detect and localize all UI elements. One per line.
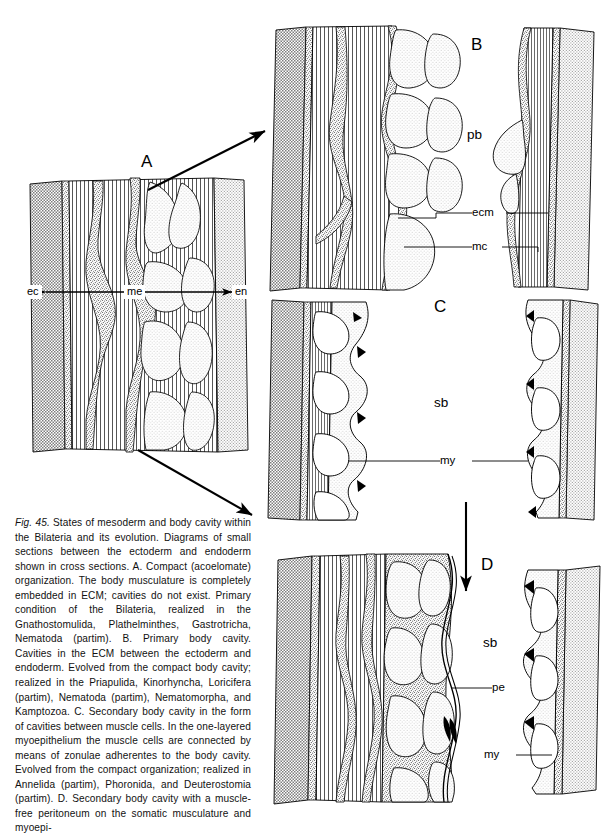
panel-b-ecm-sheet-left <box>381 26 406 290</box>
panel-b-muscle-field <box>307 26 392 290</box>
panel-d-cavity-outlines-right <box>531 588 558 769</box>
panel-letter-c: C <box>434 298 446 315</box>
panel-d-ecm-matrix <box>382 554 452 802</box>
panel-c-zonulae-right <box>526 310 536 518</box>
panel-d-ecm-septa <box>336 554 382 802</box>
panel-b-muscle-field-right <box>518 28 553 287</box>
label-peritoneum: pe <box>492 682 505 694</box>
panel-a-basal-ecm <box>62 181 72 449</box>
panel-b-basal-ecm-right <box>547 28 560 287</box>
arrow-a-to-b <box>148 131 265 190</box>
panel-c-cavity-outlines-right <box>532 318 560 499</box>
panel-c-diagram <box>268 300 598 520</box>
panel-d-basal-ecm-right <box>554 570 566 794</box>
panel-b-endoderm-right <box>554 28 594 290</box>
panel-b-ecm-sheet-right <box>507 28 531 287</box>
arrow-a-to-d <box>138 450 252 515</box>
panel-d-peritoneum-left <box>442 554 456 802</box>
panel-c-zonulae-left <box>353 312 366 492</box>
label-ectoderm: ec <box>24 285 42 299</box>
panel-b-muscle-cells-right <box>493 120 525 214</box>
panel-c-myoepithelium-right <box>526 300 563 518</box>
panel-c-cavity-outlines <box>313 312 349 520</box>
figure-number: Fig. 45. <box>15 517 50 528</box>
label-primary-body-cavity: pb <box>467 128 482 142</box>
panel-c-myoepithelium-left <box>328 302 368 520</box>
panel-d-basal-ecm <box>308 556 320 800</box>
panel-a-diagram <box>30 178 248 452</box>
panel-letter-d: D <box>481 556 493 573</box>
panel-d-peritoneum-left-inner <box>446 556 460 802</box>
label-secondary-body-cavity-c: sb <box>434 396 448 410</box>
label-ecm: ecm <box>472 207 494 219</box>
panel-d-zonulae-left <box>443 716 456 744</box>
panel-a-endoderm <box>214 178 248 452</box>
panel-a-ectoderm <box>30 181 65 452</box>
panel-d-leaders <box>452 688 552 755</box>
label-secondary-body-cavity-d: sb <box>483 636 497 650</box>
panel-d-zonulae-right <box>524 580 534 730</box>
panel-letter-a: A <box>141 153 152 170</box>
panel-b-ectoderm <box>270 27 306 291</box>
panel-a-cells <box>141 182 214 450</box>
panel-d-ectoderm <box>274 556 312 804</box>
panel-c-basal-ecm-right <box>559 300 570 518</box>
panel-b-basal-ecm <box>300 27 313 288</box>
panel-d-muscle-field <box>316 554 386 802</box>
panel-c-basal-ecm <box>300 302 311 520</box>
panel-b-ecm-septum-1 <box>329 27 352 288</box>
panel-d-myoepithelium-right <box>523 570 558 794</box>
panel-a-muscle-field <box>69 178 218 452</box>
panel-d-cells <box>384 560 454 802</box>
panel-b-muscle-cells <box>384 30 462 290</box>
panel-letter-b: B <box>471 36 482 53</box>
panel-c-muscle-field <box>307 302 332 520</box>
label-myoepithelium-c: my <box>440 455 455 467</box>
panel-b-ecm-septum-1b <box>316 196 352 244</box>
panel-a-ecm-septa <box>86 178 156 452</box>
label-muscle-cell: mc <box>472 241 487 253</box>
figure-caption: Fig. 45. States of mesoderm and body cav… <box>15 516 251 836</box>
panel-c-endoderm-right <box>566 300 598 520</box>
panel-d-diagram <box>274 554 600 804</box>
label-endoderm: en <box>232 285 250 299</box>
figure-caption-text: States of mesoderm and body cavity withi… <box>15 517 251 833</box>
label-myoepithelium-d: my <box>484 749 499 761</box>
panel-d-endoderm-right <box>562 566 600 794</box>
label-mesoderm: me <box>124 285 145 299</box>
panel-c-ectoderm <box>268 300 304 520</box>
panel-b-diagram <box>270 26 594 291</box>
